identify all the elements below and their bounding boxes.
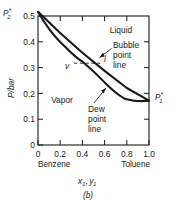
phase-diagram-figure: 0 0.1 0.2 0.3 0.4 0.5 P/bar 0 0.2 0.4 0.… xyxy=(0,0,177,202)
x-tick-0.8: 0.8 xyxy=(121,149,133,159)
y-tick-0.2: 0.2 xyxy=(23,89,35,99)
x-axis-left-component: Benzene xyxy=(38,160,71,169)
figure-background xyxy=(0,0,177,202)
x-tick-0.4: 0.4 xyxy=(77,149,89,159)
y-tick-0.1: 0.1 xyxy=(23,114,35,124)
figure-caption: (b) xyxy=(83,191,93,200)
region-label-liquid: Liquid xyxy=(110,25,133,35)
x-axis-title-comma: , xyxy=(85,176,87,186)
x-axis-title-y-sub: 1 xyxy=(93,181,96,187)
dew-annot-line3: line xyxy=(88,124,101,134)
dew-annot-line1: Dew xyxy=(88,104,106,114)
y-tick-0: 0 xyxy=(30,140,35,150)
x-tick-0: 0 xyxy=(36,149,41,159)
p1-sub: 1 xyxy=(159,98,162,104)
x-tick-0.2: 0.2 xyxy=(54,149,66,159)
x-tick-1.0: 1.0 xyxy=(143,149,155,159)
region-label-vapor: Vapor xyxy=(51,95,73,105)
bubble-annot-line3: line xyxy=(113,60,126,70)
y-tick-0.3: 0.3 xyxy=(23,63,35,73)
y-tick-0.5: 0.5 xyxy=(23,11,35,21)
bubble-annot-line2: point xyxy=(113,50,132,60)
bubble-annot-line1: Bubble xyxy=(113,40,139,50)
x-tick-0.6: 0.6 xyxy=(99,149,111,159)
x-axis-right-component: Toluene xyxy=(121,160,150,169)
dew-annot-line2: point xyxy=(88,114,107,124)
y-axis-title: P/bar xyxy=(6,77,16,98)
y-tick-0.4: 0.4 xyxy=(23,37,35,47)
